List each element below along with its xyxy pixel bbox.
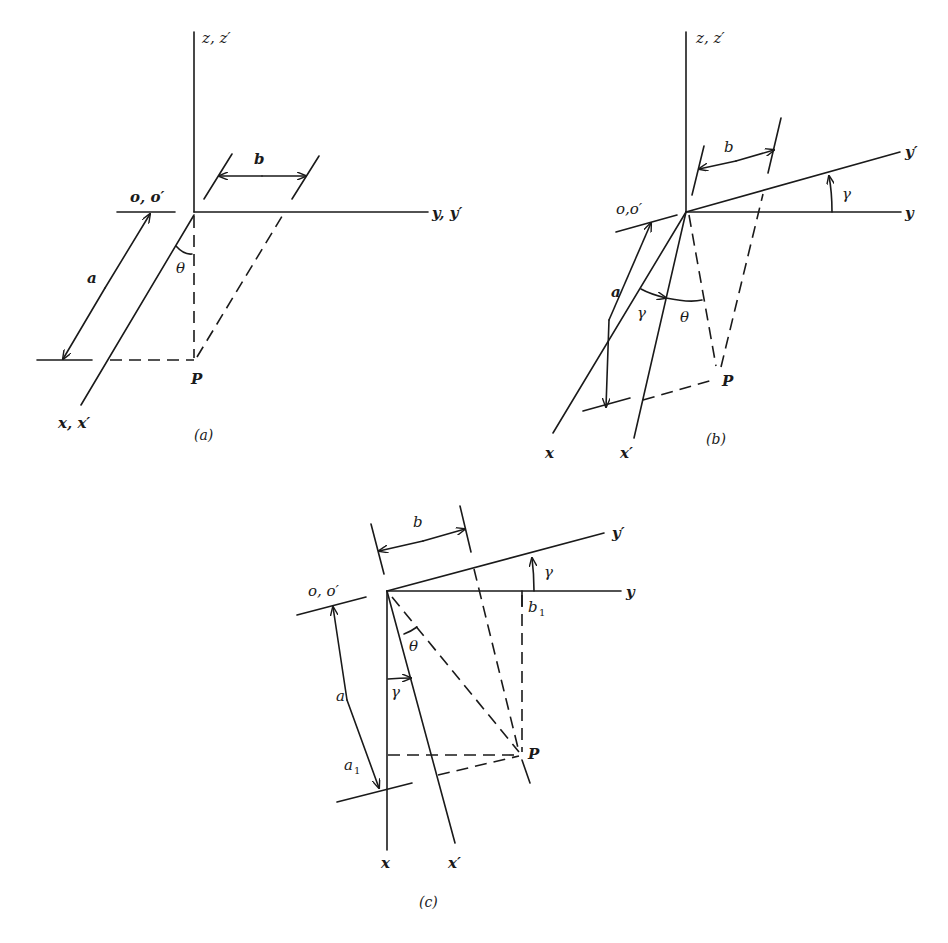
label-dim-a: a [336,687,345,705]
b-extension-right [292,156,319,199]
x-axis [553,212,686,433]
label-point-p: P [190,370,203,388]
gamma-arc-top [829,176,832,212]
label-y-axis: y [625,583,636,601]
panel-b: z, z′ y y′ x x′ o,o′ a b γ γ θ P (b) [544,29,918,462]
theta-arc [666,298,702,301]
panel-a: z, z′ y, y′ x, x′ o, o′ a b θ P (a) [37,29,462,443]
label-theta: θ [176,259,185,277]
label-dim-b: b [724,138,734,156]
label-x-axis: x [380,854,391,872]
dim-a-arrow-down [606,320,609,407]
caption-c: (c) [419,894,438,910]
a1-extension-line [337,783,412,802]
projection-op [392,597,519,752]
label-theta: θ [409,637,418,655]
p-tick [522,760,530,783]
label-point-p: P [721,372,734,390]
theta-arc [404,627,417,634]
label-origin: o, o′ [308,582,340,600]
projection-y [197,213,284,357]
label-z-axis: z, z′ [695,29,725,47]
label-dim-b1: b [528,598,538,616]
x-axis [81,215,194,405]
label-gamma-left: γ [637,304,646,322]
dim-b-arrow-right [736,150,774,161]
label-x-axis: x [544,444,555,462]
b-extension-left [371,524,384,574]
label-origin: o, o′ [130,188,164,206]
label-dim-a: a [87,269,97,287]
label-gamma-top: γ [842,185,851,203]
dim-b-arrow-left [379,541,423,551]
label-gamma-left: γ [391,683,400,701]
dim-b-arrow-right [423,529,465,541]
x-prime-axis [387,591,455,843]
dim-b-arrow-left [699,161,736,169]
label-dim-a1: a [344,756,353,774]
label-x-prime-axis: x′ [447,854,461,872]
projection-y-prime [721,194,763,367]
y-prime-axis [686,152,900,212]
label-point-p: P [527,745,540,763]
label-dim-a1-subscript: 1 [354,765,360,776]
b-extension-right [768,118,781,173]
label-z-axis: z, z′ [201,29,231,47]
dim-a-arrow-up [105,214,150,288]
label-dim-b: b [413,513,423,531]
projection-x-prime [643,379,716,400]
gamma-arc-left [388,678,411,679]
label-y-axis: y [904,204,915,222]
label-dim-b1-subscript: 1 [539,607,545,618]
label-dim-a: a [611,283,621,301]
panel-c: y y′ x x′ o, o′ a a 1 b b 1 γ γ θ P (c) [297,506,636,910]
projection-x-prime [438,756,519,775]
label-x-axis: x, x′ [57,414,90,432]
coordinate-rotation-figure: z, z′ y, y′ x, x′ o, o′ a b θ P (a) [0,0,948,943]
label-origin: o,o′ [616,200,643,218]
label-y-prime-axis: y′ [904,143,918,161]
b-extension-left [692,146,704,195]
theta-arc [176,246,192,254]
label-theta: θ [680,308,689,326]
projection-to-p [689,215,716,366]
label-dim-b: b [254,150,265,168]
dim-a-arrow-down [347,700,379,788]
label-y-axis: y, y′ [431,204,462,222]
label-gamma-top: γ [544,563,553,581]
label-y-prime-axis: y′ [611,524,625,542]
caption-b: (b) [706,431,726,447]
label-x-prime-axis: x′ [619,444,633,462]
projection-y-prime [474,569,519,752]
caption-a: (a) [194,427,213,443]
gamma-arc-top [532,558,534,591]
dim-a-arrow-down [63,288,105,359]
gamma-arc-left [641,289,666,298]
